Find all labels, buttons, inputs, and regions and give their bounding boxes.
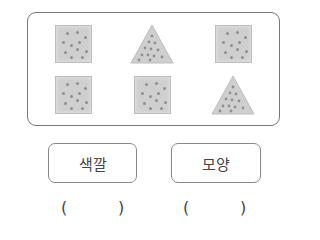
- square-shape: [215, 25, 252, 63]
- answer-close-paren: ): [240, 198, 246, 217]
- option-shape-box[interactable]: 모양: [171, 143, 261, 183]
- triangle-shape: [211, 75, 255, 115]
- answer-open-paren: (: [183, 198, 189, 217]
- option-shape-label: 모양: [202, 153, 230, 174]
- square-shape: [134, 76, 171, 114]
- square-shape: [55, 25, 92, 63]
- option-color-box[interactable]: 색깔: [48, 143, 137, 183]
- triangle-shape: [130, 24, 174, 64]
- answer-open-paren: (: [61, 198, 67, 217]
- option-color-label: 색깔: [79, 153, 107, 174]
- square-shape: [55, 76, 92, 114]
- answer-close-paren: ): [118, 198, 124, 217]
